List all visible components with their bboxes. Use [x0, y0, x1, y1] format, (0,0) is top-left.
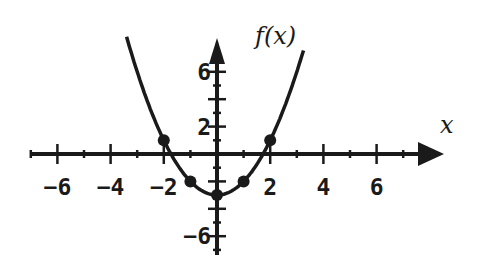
x-tick-label: −2 — [150, 174, 178, 200]
data-point — [264, 134, 276, 146]
y-tick-label: 6 — [197, 59, 211, 85]
x-axis-label: x — [440, 111, 454, 139]
data-point — [211, 189, 223, 201]
y-axis-label: f(x) — [253, 22, 296, 50]
data-point — [184, 175, 196, 187]
x-tick-label: 4 — [316, 174, 330, 200]
y-axis-arrow-icon — [209, 38, 225, 64]
data-point — [238, 175, 250, 187]
x-tick-label: 6 — [370, 174, 384, 200]
function-graph: −6−4−224662−6 f(x) x — [0, 0, 481, 274]
y-tick-label: 2 — [197, 114, 211, 140]
x-tick-label: −4 — [97, 174, 125, 200]
axes — [30, 38, 444, 255]
x-axis-arrow-icon — [418, 142, 444, 166]
x-tick-label: −6 — [44, 174, 72, 200]
x-tick-label: 2 — [263, 174, 277, 200]
data-point — [158, 134, 170, 146]
y-tick-label: −6 — [183, 223, 211, 249]
